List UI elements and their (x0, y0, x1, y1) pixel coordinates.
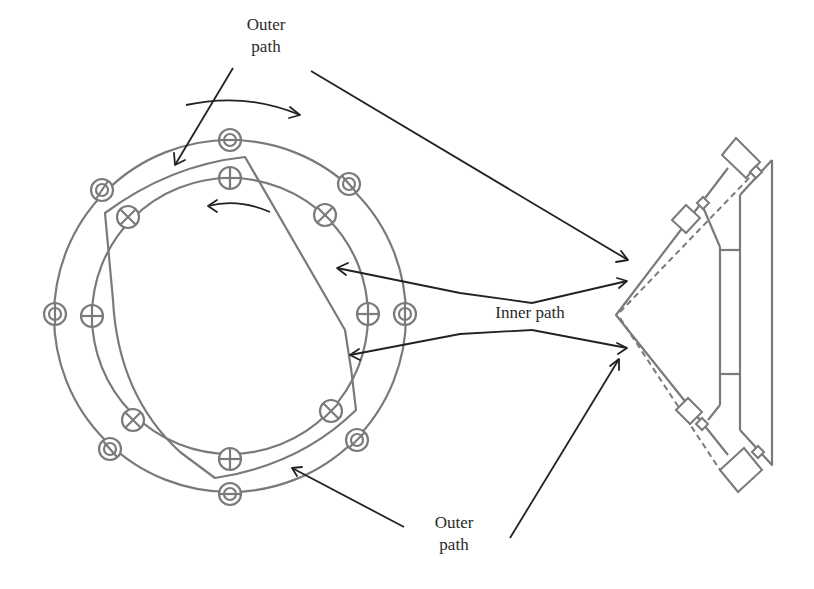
chain-path-diagram (0, 0, 814, 589)
inner-marker-bottom (219, 448, 241, 470)
inner-ring-markers (81, 167, 379, 470)
right-assembly (616, 138, 772, 492)
inner-marker-top-left (117, 206, 139, 228)
outer-path-bottom-label: Outer path (424, 512, 484, 556)
outer-marker-top-left (91, 179, 113, 201)
inner-marker-bottom-left (122, 409, 144, 431)
outer-path-top-label: Outer path (236, 14, 296, 58)
outer-path-top-line1: Outer (236, 14, 296, 36)
outer-marker-bottom-right (346, 429, 368, 451)
outer-path-bottom-arrow-left (292, 467, 404, 527)
bottom-inner-roller (676, 398, 702, 424)
outer-path-bottom-arrow-right (510, 359, 619, 538)
outer-path-bottom-line2: path (424, 534, 484, 556)
inner-marker-bottom-right (320, 400, 342, 422)
outer-marker-top-right (338, 173, 360, 195)
outer-path-top-line2: path (236, 36, 296, 58)
outer-marker-bottom (219, 483, 241, 505)
inner-marker-top-right (314, 204, 336, 226)
inner-marker-top (219, 167, 241, 189)
inner-path-arrow-lower-left (350, 330, 532, 360)
outer-marker-top (219, 129, 241, 151)
outer-marker-right (394, 303, 416, 325)
inner-marker-left (81, 305, 103, 327)
inner-path-label: Inner path (470, 302, 590, 324)
outer-marker-left (44, 303, 66, 325)
inner-path-text: Inner path (495, 303, 564, 322)
outer-path-bottom-line1: Outer (424, 512, 484, 534)
outer-path-top-arrow-right (311, 71, 628, 262)
outer-marker-bottom-left (99, 438, 121, 460)
clockwise-rotation-arrow (186, 100, 300, 118)
inner-marker-right (357, 303, 379, 325)
counterclockwise-rotation-arrow (208, 200, 270, 212)
inner-path-arrow-upper-right (532, 278, 627, 303)
inner-path-arrow-lower-right (532, 330, 627, 354)
